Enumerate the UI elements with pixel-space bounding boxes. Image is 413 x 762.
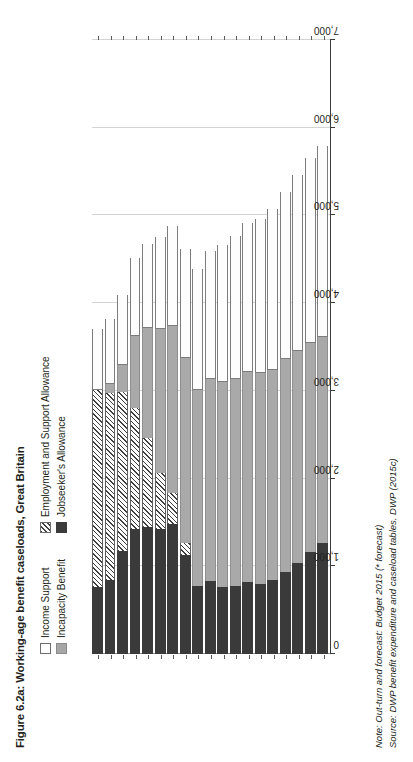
legend-label-income-support: Income Support [40,567,51,638]
category-tick [236,655,237,659]
bar-segment-is [267,209,278,370]
bar-row [192,40,203,654]
value-tick [330,478,335,479]
category-tick [136,655,137,659]
category-tick-right [123,36,124,40]
bar-segment-jsa [155,529,166,654]
bar-segment-esa [105,394,116,581]
bar-row [217,40,228,654]
bar-segment-esa [130,408,141,528]
income-support-swatch-icon [40,643,51,654]
category-tick-right [211,36,212,40]
incapacity-benefit-swatch-icon [56,643,67,654]
value-tick-label: 3,000 [314,376,339,387]
category-tick [111,655,112,659]
category-tick [173,655,174,659]
category-tick [224,655,225,659]
category-tick-right [98,36,99,40]
bar-segment-ib [180,358,191,542]
bar-segment-is [255,219,266,373]
category-tick-right [311,36,312,40]
category-tick [186,655,187,659]
category-tick [161,655,162,659]
value-tick [330,390,335,391]
bar-segment-ib [267,370,278,581]
category-tick [148,655,149,659]
bar-segment-ib [192,390,203,586]
bar-segment-jsa [230,586,241,654]
value-tick-label: 2,000 [314,464,339,475]
bar-segment-jsa [92,587,103,654]
category-tick-right [249,36,250,40]
bar-segment-ib [155,329,166,473]
bar-segment-is [230,236,241,379]
category-tick-right [286,36,287,40]
bar-segment-ib [317,337,328,543]
bar-segment-is [155,237,166,329]
bar-segment-esa [142,438,153,527]
category-tick-right [198,36,199,40]
bar-segment-is [242,223,253,372]
value-tick [330,565,335,566]
bar-segment-is [130,258,141,335]
bar-segment-is [180,249,191,359]
bar-row [92,40,103,654]
legend-label-esa: Employment and Support Allowance [40,356,51,517]
category-tick [299,655,300,659]
bar-row [130,40,141,654]
category-tick-right [274,36,275,40]
value-tick-label: 1,000 [314,551,339,562]
category-tick [98,655,99,659]
category-tick [261,655,262,659]
legend-column-left: Income Support Incapacity Benefit [40,559,67,654]
bar-segment-jsa [117,551,128,654]
bar-segment-ib [280,359,291,571]
category-tick-right [261,36,262,40]
category-tick [211,655,212,659]
value-tick [330,214,335,215]
bar-segment-ib [242,372,253,582]
legend-item-esa: Employment and Support Allowance [40,356,51,533]
bar-row [205,40,216,654]
bar-row [230,40,241,654]
bar-segment-esa [92,390,103,587]
plot-area [92,40,330,654]
value-tick [330,302,335,303]
bar-segment-jsa [205,581,216,654]
bar-segment-ib [230,379,241,587]
category-tick [311,655,312,659]
bar-segment-is [305,158,316,343]
bar-segment-ib [292,351,303,563]
bar-segment-jsa [167,524,178,654]
legend-item-jsa: Jobseeker's Allowance [56,356,67,533]
bar-segment-jsa [192,586,203,654]
bar-segment-jsa [105,580,116,654]
bar-segment-is [167,226,178,326]
jsa-swatch-icon [56,522,67,533]
bar-segment-esa [155,473,166,529]
bar-row [267,40,278,654]
chart-legend: Income Support Incapacity Benefit Employ… [40,134,67,654]
bar-segment-esa [117,392,128,552]
bar-segment-ib [105,384,116,394]
value-tick-label: 0 [333,639,339,650]
bar-row [255,40,266,654]
bar-segment-jsa [255,584,266,654]
bar-segment-jsa [305,552,316,654]
bar-row [105,40,116,654]
bar-segment-ib [305,343,316,553]
bar-segment-is [317,146,328,337]
legend-column-right: Employment and Support Allowance Jobseek… [40,356,67,533]
esa-swatch-icon [40,522,51,533]
source-text: Source: DWP benefit expenditure and case… [387,458,398,748]
figure-title: Figure 6.2a: Working-age benefit caseloa… [14,446,26,748]
bar-segment-ib [130,336,141,409]
category-tick [123,655,124,659]
bar-segment-is [192,269,203,390]
category-tick-right [136,36,137,40]
category-tick-right [324,36,325,40]
bar-row [280,40,291,654]
bar-segment-esa [167,493,178,525]
category-tick [324,655,325,659]
bar-segment-jsa [280,572,291,654]
